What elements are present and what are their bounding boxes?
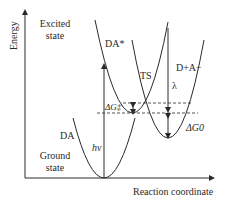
ground-state-label-2: state xyxy=(38,162,72,173)
activation-energy-label: ΔG‡ xyxy=(105,102,121,113)
excited-curve-label: DA* xyxy=(105,38,124,49)
excitation-label: hν xyxy=(92,142,101,153)
y-axis-label: Energy xyxy=(8,21,19,50)
excited-state-curve xyxy=(95,20,168,113)
reorganization-label: λ xyxy=(172,80,177,91)
marcus-energy-diagram xyxy=(0,0,226,200)
transition-state-label: TS xyxy=(140,70,152,81)
x-axis-label: Reaction coordinate xyxy=(133,186,213,197)
ground-state-label-1: Ground xyxy=(38,150,72,161)
excited-state-label-1: Excited xyxy=(38,18,72,29)
charge-transfer-curve-label: D+A− xyxy=(176,62,202,73)
ground-curve-label: DA xyxy=(60,130,74,141)
excited-state-label-2: state xyxy=(38,30,72,41)
driving-force-label: ΔG0 xyxy=(186,122,204,133)
